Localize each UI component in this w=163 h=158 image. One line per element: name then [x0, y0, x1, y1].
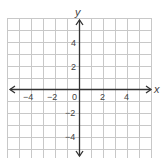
x-axis-label: x: [153, 83, 160, 95]
x-tick-label: −2: [47, 92, 57, 102]
y-tick-label: 2: [71, 62, 76, 72]
x-tick-label: 0: [72, 92, 77, 102]
x-tick-label: −4: [23, 92, 33, 102]
y-tick-label: 4: [71, 38, 76, 48]
y-axis: [76, 20, 83, 156]
y-axis-label: y: [74, 6, 82, 18]
y-tick-label: −2: [65, 108, 75, 118]
y-tick-label: −4: [65, 132, 75, 142]
x-tick-label: 2: [100, 92, 105, 102]
coordinate-plane: x y −4 −2 0 2 4 4 2 −2 −4: [0, 0, 163, 158]
x-tick-labels: −4 −2 0 2 4: [23, 92, 129, 102]
x-tick-label: 4: [124, 92, 129, 102]
